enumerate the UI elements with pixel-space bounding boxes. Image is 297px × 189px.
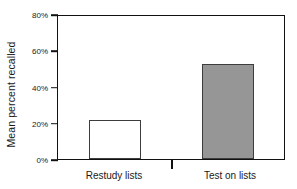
y-axis-tick-label-40: 40% <box>6 83 48 92</box>
bar-restudy-lists <box>89 120 141 159</box>
y-axis-tick-label-60: 60% <box>6 47 48 56</box>
bar-test-on-lists <box>202 64 254 159</box>
bar-chart-figure: Mean percent recalled 80% 60% 40% 20% 0%… <box>0 0 297 189</box>
y-axis-tick-label-80: 80% <box>6 11 48 20</box>
y-axis-tick-label-20: 20% <box>6 119 48 128</box>
x-axis-label-test-on-lists: Test on lists <box>171 170 289 181</box>
x-axis-separator-tick <box>171 160 173 169</box>
y-axis-tick-label-0: 0% <box>6 156 48 165</box>
plot-area <box>57 15 285 160</box>
x-axis-label-restudy-lists: Restudy lists <box>55 170 173 181</box>
